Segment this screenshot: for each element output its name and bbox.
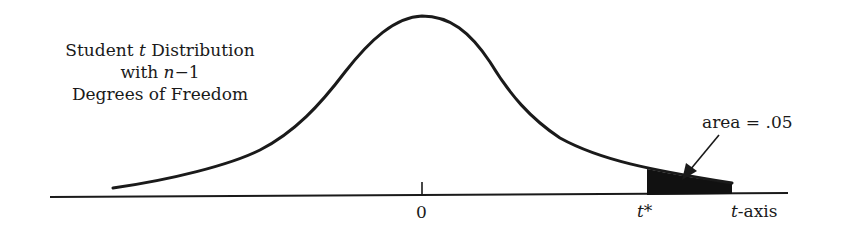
title-line-2: with n−1 xyxy=(30,61,290,83)
t-star-label: t* xyxy=(637,200,652,222)
t-distribution-diagram: Student t Distribution with n−1 Degrees … xyxy=(0,0,847,240)
zero-label: 0 xyxy=(416,201,427,223)
title-line-1: Student t Distribution xyxy=(30,39,290,61)
area-annotation: area = .05 xyxy=(702,111,793,133)
t-axis-label: t-axis xyxy=(731,200,777,222)
diagram-title: Student t Distribution with n−1 Degrees … xyxy=(30,39,290,105)
area-arrow-shaft xyxy=(690,135,719,170)
title-line-3: Degrees of Freedom xyxy=(30,83,290,105)
